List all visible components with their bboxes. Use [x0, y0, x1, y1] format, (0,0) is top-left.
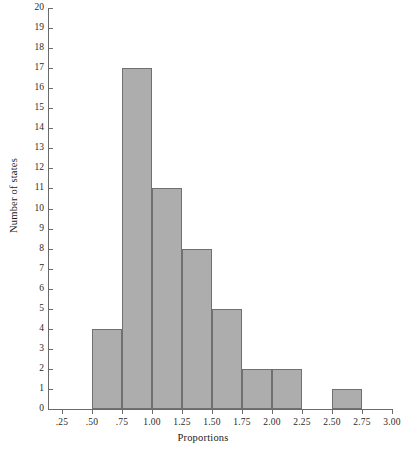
x-tick-mark — [152, 409, 153, 414]
y-tick-label: 18 — [0, 43, 44, 53]
histogram-bar — [212, 309, 242, 409]
x-tick-mark — [62, 409, 63, 414]
y-tick-mark — [48, 309, 53, 310]
x-tick-mark — [302, 409, 303, 414]
x-tick-mark — [272, 409, 273, 414]
y-tick-mark — [48, 369, 53, 370]
histogram-bar — [332, 389, 362, 409]
histogram-bar — [122, 68, 152, 409]
y-tick-mark — [48, 349, 53, 350]
y-tick-mark — [48, 68, 53, 69]
y-tick-label: 16 — [0, 83, 44, 93]
y-tick-mark — [48, 128, 53, 129]
y-tick-mark — [48, 289, 53, 290]
x-tick-mark — [332, 409, 333, 414]
x-tick-label-wrap: 3.00 — [372, 417, 406, 427]
histogram-chart: 01234567891011121314151617181920 .25.50.… — [0, 0, 406, 451]
x-tick-mark — [392, 409, 393, 414]
y-tick-label: 17 — [0, 63, 44, 73]
x-tick-mark — [212, 409, 213, 414]
y-tick-mark — [48, 8, 53, 9]
histogram-bar — [182, 249, 212, 409]
y-tick-mark — [48, 28, 53, 29]
y-tick-label: 0 — [0, 404, 44, 414]
x-tick-mark — [92, 409, 93, 414]
histogram-bar — [272, 369, 302, 409]
y-tick-mark — [48, 329, 53, 330]
y-tick-mark — [48, 409, 53, 410]
y-tick-label: 2 — [0, 364, 44, 374]
y-tick-mark — [48, 108, 53, 109]
y-tick-mark — [48, 148, 53, 149]
y-tick-label: 20 — [0, 3, 44, 13]
y-tick-label: 15 — [0, 103, 44, 113]
y-tick-label: 1 — [0, 384, 44, 394]
y-tick-mark — [48, 229, 53, 230]
histogram-bar — [242, 369, 272, 409]
x-tick-mark — [182, 409, 183, 414]
x-axis-title: Proportions — [0, 432, 406, 443]
y-axis-title: Number of states — [8, 121, 19, 271]
y-tick-mark — [48, 209, 53, 210]
y-tick-mark — [48, 269, 53, 270]
y-tick-mark — [48, 168, 53, 169]
histogram-bar — [92, 329, 122, 409]
x-axis-line — [48, 409, 392, 410]
y-tick-mark — [48, 88, 53, 89]
y-tick-mark — [48, 188, 53, 189]
x-tick-mark — [242, 409, 243, 414]
y-tick-label: 4 — [0, 324, 44, 334]
x-tick-mark — [122, 409, 123, 414]
y-tick-mark — [48, 249, 53, 250]
histogram-bar — [152, 188, 182, 409]
y-tick-label: 19 — [0, 23, 44, 33]
x-tick-label: 3.00 — [372, 417, 406, 427]
y-tick-label: 6 — [0, 284, 44, 294]
y-tick-mark — [48, 48, 53, 49]
y-tick-mark — [48, 389, 53, 390]
y-tick-label: 5 — [0, 304, 44, 314]
y-tick-label: 3 — [0, 344, 44, 354]
x-tick-mark — [362, 409, 363, 414]
